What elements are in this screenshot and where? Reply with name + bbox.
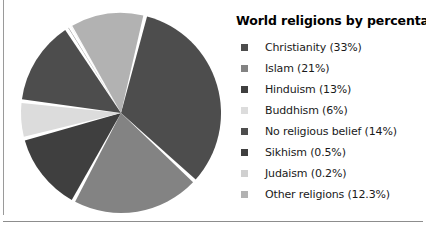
legend-swatch-icon xyxy=(241,65,248,72)
legend-item[interactable]: Other religions (12.3%) xyxy=(236,184,422,205)
legend-title: World religions by percentage xyxy=(236,13,422,28)
legend-swatch-icon xyxy=(241,107,248,114)
legend-item[interactable]: Sikhism (0.5%) xyxy=(236,142,422,163)
legend-swatch-icon xyxy=(241,44,248,51)
legend-item-label: Sikhism (0.5%) xyxy=(265,146,346,159)
legend-item[interactable]: No religious belief (14%) xyxy=(236,121,422,142)
legend-item-label: No religious belief (14%) xyxy=(265,125,397,138)
legend-swatch-icon xyxy=(241,170,248,177)
legend-item[interactable]: Judaism (0.2%) xyxy=(236,163,422,184)
legend-swatch-icon xyxy=(241,191,248,198)
figure-bottom-rule xyxy=(3,221,423,222)
legend-item[interactable]: Islam (21%) xyxy=(236,58,422,79)
pie-chart-area xyxy=(13,8,229,216)
legend-item[interactable]: Buddhism (6%) xyxy=(236,100,422,121)
legend-item-label: Islam (21%) xyxy=(265,62,329,75)
legend-swatch-icon xyxy=(241,149,248,156)
figure-left-rule xyxy=(3,0,4,215)
legend-item[interactable]: Hinduism (13%) xyxy=(236,79,422,100)
legend-item-label: Christianity (33%) xyxy=(265,41,362,54)
legend-item[interactable]: Christianity (33%) xyxy=(236,37,422,58)
legend-item-label: Judaism (0.2%) xyxy=(265,167,346,180)
legend-swatch-icon xyxy=(241,128,248,135)
chart-legend: World religions by percentage Christiani… xyxy=(236,13,422,205)
legend-item-label: Hinduism (13%) xyxy=(265,83,351,96)
pie-chart-figure: World religions by percentage Christiani… xyxy=(0,0,426,228)
legend-item-label: Other religions (12.3%) xyxy=(265,188,390,201)
pie-chart-svg xyxy=(13,8,229,216)
legend-list: Christianity (33%)Islam (21%)Hinduism (1… xyxy=(236,37,422,205)
legend-item-label: Buddhism (6%) xyxy=(265,104,348,117)
legend-swatch-icon xyxy=(241,86,248,93)
